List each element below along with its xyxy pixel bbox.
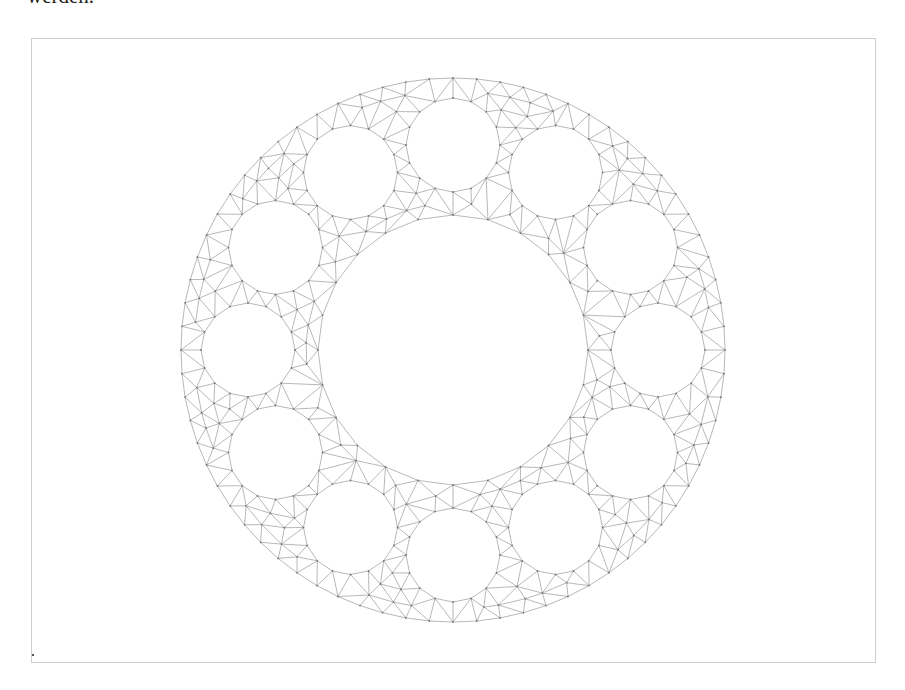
- mesh-edges: [181, 78, 725, 622]
- corner-mark: [32, 654, 34, 656]
- fem-mesh-figure: [0, 0, 905, 690]
